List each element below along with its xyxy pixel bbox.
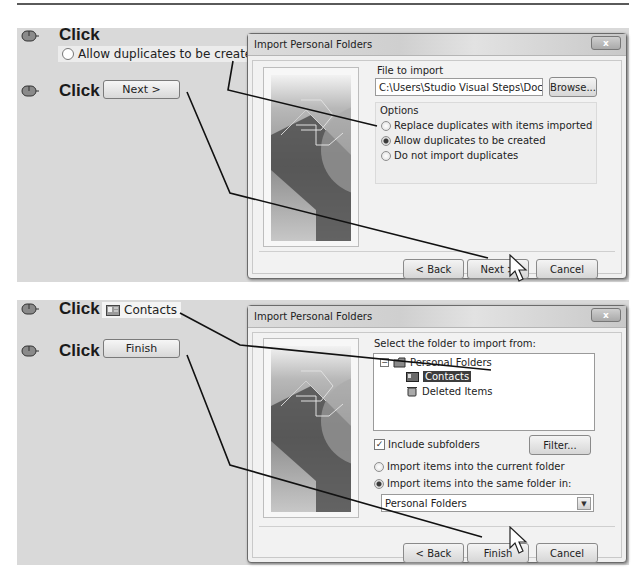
step-4-target-finish-button: Finish [103, 339, 180, 358]
select-folder-label: Select the folder to import from: [374, 338, 536, 349]
target-folder-select[interactable]: Personal Folders ▼ [381, 494, 594, 512]
checkbox-checked-icon: ✓ [374, 439, 385, 450]
include-subfolders-checkbox[interactable]: ✓ Include subfolders [374, 439, 480, 450]
option-import-current-folder[interactable]: Import items into the current folder [374, 461, 565, 472]
radio-selected-icon [381, 136, 391, 146]
radio-selected-icon [374, 479, 384, 489]
radio-icon [62, 48, 74, 60]
file-path-input[interactable]: C:\Users\Studio Visual Steps\Documents\ [375, 78, 543, 96]
option-replace-duplicates[interactable]: Replace duplicates with items imported [381, 120, 592, 131]
filter-button[interactable]: Filter... [529, 435, 591, 455]
mouse-icon [21, 85, 39, 97]
dropdown-arrow-icon[interactable]: ▼ [577, 497, 591, 510]
step-3-target-contacts: Contacts [102, 302, 181, 318]
mouse-icon [21, 30, 39, 42]
close-button[interactable]: x [591, 36, 621, 50]
import-dialog-1: Import Personal Folders x File to import… [247, 33, 627, 279]
options-group: Options Replace duplicates with items im… [375, 102, 597, 184]
step-4-action: Click [59, 341, 100, 361]
mouse-icon [21, 303, 39, 315]
contacts-icon [106, 305, 120, 316]
step-1-target-radio: Allow duplicates to be created [58, 46, 264, 62]
back-button[interactable]: < Back [403, 259, 464, 279]
folders-icon [393, 357, 406, 368]
step-2-action: Click [59, 81, 100, 101]
back-button[interactable]: < Back [403, 543, 464, 563]
tree-item-contacts[interactable]: Contacts [406, 371, 471, 382]
radio-icon [381, 151, 391, 161]
button-separator [259, 251, 615, 252]
tree-item-deleted-items[interactable]: Deleted Items [406, 385, 492, 397]
options-label: Options [380, 105, 419, 116]
top-rule [17, 3, 629, 5]
mouse-pointer-icon [509, 254, 531, 282]
cancel-button[interactable]: Cancel [536, 259, 598, 279]
step-1-target-label: Allow duplicates to be created [78, 47, 260, 61]
option-import-same-folder[interactable]: Import items into the same folder in: [374, 478, 571, 489]
browse-button[interactable]: Browse... [549, 77, 597, 97]
step-3-target-label: Contacts [124, 303, 177, 317]
trash-icon [406, 385, 418, 397]
cancel-button[interactable]: Cancel [536, 543, 598, 563]
dialog-titlebar: Import Personal Folders x [248, 306, 626, 328]
folder-tree: − Personal Folders Contacts Deleted Item… [373, 353, 595, 431]
radio-icon [374, 462, 384, 472]
radio-icon [381, 121, 391, 131]
wizard-artwork [263, 67, 359, 247]
collapse-icon[interactable]: − [380, 358, 389, 367]
button-separator [259, 526, 615, 527]
artwork-graphic [271, 346, 351, 512]
file-to-import-label: File to import [377, 65, 443, 76]
artwork-graphic [271, 75, 351, 241]
contacts-icon [406, 372, 419, 382]
option-allow-duplicates[interactable]: Allow duplicates to be created [381, 135, 546, 146]
dialog-titlebar: Import Personal Folders x [248, 34, 626, 56]
mouse-pointer-icon [509, 526, 531, 554]
step-2-target-next-button: Next > [103, 80, 180, 99]
close-button[interactable]: x [591, 308, 621, 322]
dialog-title: Import Personal Folders [254, 39, 372, 50]
import-dialog-2: Import Personal Folders x Select the fol… [247, 305, 627, 563]
tree-item-personal-folders[interactable]: − Personal Folders [380, 357, 492, 368]
wizard-artwork [263, 338, 359, 518]
step-1-action: Click [59, 25, 100, 45]
dialog-title: Import Personal Folders [254, 311, 372, 322]
step-3-action: Click [59, 299, 100, 319]
mouse-icon [21, 345, 39, 357]
dialog-body: Select the folder to import from: − Pers… [252, 332, 622, 558]
dialog-body: File to import C:\Users\Studio Visual St… [252, 60, 622, 274]
option-do-not-import-duplicates[interactable]: Do not import duplicates [381, 150, 518, 161]
